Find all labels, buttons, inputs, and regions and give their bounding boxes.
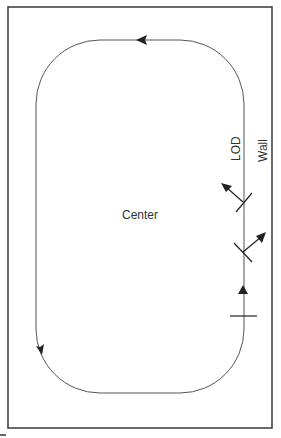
corner-mark (0, 434, 6, 436)
wall-label: Wall (256, 139, 270, 162)
dance-floor-diagram: Center LOD Wall (0, 0, 281, 438)
arrow-down-icon (36, 344, 44, 355)
arrow-up-right-icon (256, 232, 266, 243)
arrow-up-icon (238, 285, 248, 294)
center-label: Center (122, 208, 158, 222)
marker-diagonal-wall (234, 232, 266, 262)
marker-diagonal-center (221, 183, 252, 212)
lod-label: LOD (229, 136, 243, 161)
